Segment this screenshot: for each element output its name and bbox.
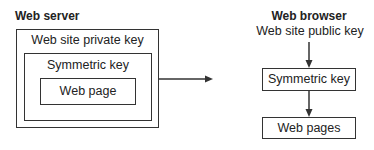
public-key-label: Web site public key <box>245 24 374 38</box>
web-pages-label: Web pages <box>262 121 356 135</box>
browser-symmetric-key-label: Symmetric key <box>262 72 356 86</box>
browser-title: Web browser <box>262 9 356 23</box>
